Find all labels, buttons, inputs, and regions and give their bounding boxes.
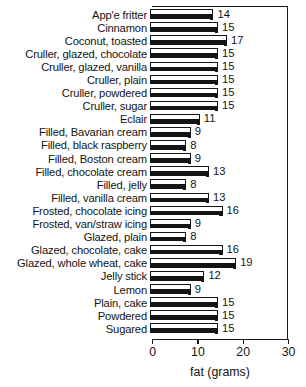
category-label: Frosted, van/straw icing: [0, 218, 150, 230]
bar-zone: 9: [150, 283, 286, 296]
bar-zone: 11: [150, 113, 286, 126]
bar-zone: 15: [150, 309, 286, 322]
x-tick-label: 10: [191, 345, 205, 359]
bar-end-cap: [233, 263, 236, 268]
bar-value-label: 15: [222, 322, 234, 335]
bar-zone: 15: [150, 322, 286, 335]
bar-value-label: 13: [213, 165, 225, 178]
bar-zone: 19: [150, 257, 286, 270]
category-label: Filled, Boston cream: [0, 153, 150, 165]
bar-end-cap: [188, 290, 191, 295]
bar: [150, 127, 191, 137]
bar-value-label: 15: [222, 47, 234, 60]
bar: [150, 140, 186, 150]
bar-row: Cruller, powdered15: [0, 87, 306, 100]
category-label: Cinnamon: [0, 22, 150, 34]
bar-row: Jelly stick12: [0, 270, 306, 283]
bar-row: Eclair11: [0, 113, 306, 126]
category-label: App'e fritter: [0, 9, 150, 21]
bar-row: Lemon9: [0, 283, 306, 296]
bar-end-cap: [197, 119, 200, 124]
x-tick-label: 30: [282, 345, 296, 359]
bar-value-label: 17: [231, 34, 243, 47]
bar-value-label: 16: [227, 204, 239, 217]
bar-value-label: 15: [222, 21, 234, 34]
bar-value-label: 15: [222, 60, 234, 73]
bar-row: Filled, vanilla cream13: [0, 191, 306, 204]
bar-row: Glazed, plain8: [0, 231, 306, 244]
category-label: Glazed, chocolate, cake: [0, 244, 150, 256]
bar-zone: 13: [150, 165, 286, 178]
bar-value-label: 12: [208, 269, 220, 282]
bar-end-cap: [219, 250, 222, 255]
bar-end-cap: [215, 303, 218, 308]
x-tick: [288, 339, 289, 344]
bar: [150, 88, 218, 98]
bar-zone: 8: [150, 231, 286, 244]
bar-end-cap: [215, 93, 218, 98]
bar: [150, 22, 218, 32]
bar: [150, 114, 200, 124]
bar-zone: 15: [150, 296, 286, 309]
bar-end-cap: [183, 185, 186, 190]
bar-end-cap: [206, 172, 209, 177]
bar-row: App'e fritter14: [0, 8, 306, 21]
bar-zone: 8: [150, 139, 286, 152]
bar-value-label: 16: [227, 243, 239, 256]
bar: [150, 179, 186, 189]
bar-value-label: 9: [195, 125, 201, 138]
bar: [150, 258, 236, 268]
bar-zone: 8: [150, 178, 286, 191]
bar-row: Plain, cake15: [0, 296, 306, 309]
bar: [150, 35, 227, 45]
bar-value-label: 9: [195, 283, 201, 296]
category-label: Cruller, sugar: [0, 100, 150, 112]
bar-row: Powdered15: [0, 309, 306, 322]
category-label: Glazed, whole wheat, cake: [0, 257, 150, 269]
bar-value-label: 15: [222, 309, 234, 322]
bar-row: Cruller, glazed, vanilla15: [0, 60, 306, 73]
bar-end-cap: [215, 28, 218, 33]
bar-zone: 9: [150, 126, 286, 139]
bar-zone: 14: [150, 8, 286, 21]
category-label: Frosted, chocolate icing: [0, 205, 150, 217]
bar: [150, 48, 218, 58]
category-label: Filled, chocolate cream: [0, 166, 150, 178]
bar-end-cap: [183, 237, 186, 242]
category-label: Powdered: [0, 310, 150, 322]
bar-row: Frosted, van/straw icing9: [0, 218, 306, 231]
bar: [150, 101, 218, 111]
bar-end-cap: [188, 224, 191, 229]
bar-row: Cruller, glazed, chocolate15: [0, 47, 306, 60]
category-label: Jelly stick: [0, 270, 150, 282]
x-axis-line: [152, 339, 288, 340]
bar-end-cap: [188, 159, 191, 164]
bar-row: Glazed, chocolate, cake16: [0, 244, 306, 257]
bar-zone: 15: [150, 60, 286, 73]
category-label: Cruller, powdered: [0, 87, 150, 99]
category-label: Cruller, glazed, vanilla: [0, 61, 150, 73]
bar: [150, 206, 223, 216]
bar-value-label: 8: [190, 178, 196, 191]
bar-zone: 12: [150, 270, 286, 283]
bar-rows: App'e fritter14Cinnamon15Coconut, toaste…: [0, 8, 306, 335]
bar-row: Cruller, sugar15: [0, 100, 306, 113]
bar-zone: 17: [150, 34, 286, 47]
bar-value-label: 8: [190, 139, 196, 152]
bar-value-label: 9: [195, 217, 201, 230]
bar-zone: 15: [150, 47, 286, 60]
bar-end-cap: [188, 132, 191, 137]
bar: [150, 232, 186, 242]
bar-zone: 16: [150, 204, 286, 217]
bar: [150, 62, 218, 72]
bar: [150, 310, 218, 320]
category-label: Plain, cake: [0, 297, 150, 309]
bar-end-cap: [210, 15, 213, 20]
category-label: Glazed, plain: [0, 231, 150, 243]
bar-row: Filled, jelly8: [0, 178, 306, 191]
bar-zone: 15: [150, 87, 286, 100]
category-label: Filled, Bavarian cream: [0, 126, 150, 138]
bar-zone: 9: [150, 218, 286, 231]
bar-end-cap: [215, 329, 218, 334]
bar: [150, 166, 209, 176]
